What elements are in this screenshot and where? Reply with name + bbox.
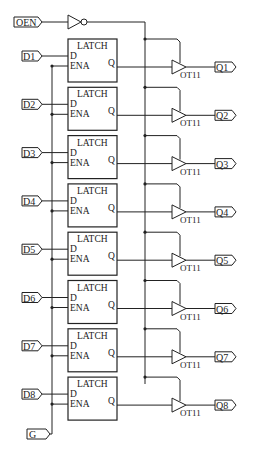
buffer-label: OT11 [180,70,201,80]
input-port-d2: D2 [22,99,42,110]
latch-pin-q: Q [108,348,115,358]
output-port-q7: Q7 [215,352,236,363]
inverter-gate [68,15,87,29]
latch-pin-d: D [70,148,77,158]
output-label: Q5 [216,255,228,266]
latch-title: LATCH [77,331,108,341]
buffer-label: OT11 [180,312,201,322]
latch-row-8: D8LATCHDENAQOT11Q8 [22,376,236,421]
latch-pin-ena: ENA [70,206,90,216]
latch-row-4: D4LATCHDENAQOT11Q4 [22,182,236,227]
latch-pin-ena: ENA [70,399,90,409]
latch-pin-q: Q [108,155,115,165]
latch-block: LATCHDENAQ [68,136,117,179]
latch-title: LATCH [77,186,108,196]
output-label: Q1 [216,62,228,73]
g-label: G [29,429,36,440]
latch-title: LATCH [77,89,108,99]
output-port-q5: Q5 [215,255,236,266]
latch-block: LATCHDENAQ [68,184,117,227]
input-port-d7: D7 [22,341,42,352]
tristate-buffer: OT11 [172,253,201,273]
latch-block: LATCHDENAQ [68,377,117,420]
input-port-d5: D5 [22,244,42,255]
latch-row-2: D2LATCHDENAQOT11Q2 [22,86,236,131]
latch-schematic: OEN G D1LATCHDENAQOT11Q1D2LATCHDENAQOT11… [0,0,253,452]
buffer-label: OT11 [180,118,201,128]
latch-pin-d: D [70,389,77,399]
latch-block: LATCHDENAQ [68,232,117,275]
latch-pin-q: Q [108,106,115,116]
oen-input-port: OEN [14,17,42,28]
input-port-d4: D4 [22,196,42,207]
input-label: D2 [23,99,35,110]
latch-title: LATCH [77,138,108,148]
latch-pin-q: Q [108,396,115,406]
latch-pin-d: D [70,196,77,206]
latch-pin-ena: ENA [70,351,90,361]
oen-label: OEN [16,17,37,28]
buffer-label: OT11 [180,215,201,225]
latch-pin-ena: ENA [70,303,90,313]
output-label: Q2 [216,110,228,121]
output-port-q4: Q4 [215,207,236,218]
g-input-port: G [27,429,50,440]
input-label: D7 [23,341,35,352]
input-port-d3: D3 [22,148,42,159]
output-label: Q4 [216,207,228,218]
latch-row-1: D1LATCHDENAQOT11Q1 [22,37,236,82]
latch-pin-d: D [70,293,77,303]
latch-row-6: D6LATCHDENAQOT11Q6 [22,279,236,324]
buffer-label: OT11 [180,360,201,370]
input-label: D5 [23,244,35,255]
latch-block: LATCHDENAQ [68,329,117,372]
latch-row-5: D5LATCHDENAQOT11Q5 [22,231,236,276]
input-label: D8 [23,389,35,400]
input-port-d8: D8 [22,389,42,400]
output-label: Q3 [216,159,228,170]
output-port-q1: Q1 [215,62,236,73]
tristate-buffer: OT11 [172,350,201,370]
input-label: D4 [23,196,35,207]
tristate-buffer: OT11 [172,302,201,322]
latch-title: LATCH [77,283,108,293]
latch-title: LATCH [77,234,108,244]
latch-pin-d: D [70,99,77,109]
buffer-label: OT11 [180,263,201,273]
latch-pin-q: Q [108,251,115,261]
output-port-q2: Q2 [215,110,236,121]
latch-block: LATCHDENAQ [68,87,117,130]
latch-pin-d: D [70,51,77,61]
latch-pin-q: Q [108,203,115,213]
latch-title: LATCH [77,41,108,51]
latch-pin-d: D [70,341,77,351]
input-port-d6: D6 [22,293,42,304]
latch-row-3: D3LATCHDENAQOT11Q3 [22,134,236,179]
input-label: D6 [23,293,35,304]
latch-title: LATCH [77,379,108,389]
output-label: Q6 [216,304,228,315]
input-label: D3 [23,148,35,159]
latch-pin-ena: ENA [70,254,90,264]
latch-pin-ena: ENA [70,61,90,71]
latch-block: LATCHDENAQ [68,39,117,82]
output-port-q6: Q6 [215,304,236,315]
tristate-buffer: OT11 [172,398,201,418]
buffer-label: OT11 [180,408,201,418]
latch-pin-q: Q [108,300,115,310]
buffer-label: OT11 [180,167,201,177]
output-label: Q8 [216,400,228,411]
tristate-buffer: OT11 [172,108,201,128]
latch-pin-ena: ENA [70,158,90,168]
latch-pin-d: D [70,244,77,254]
tristate-buffer: OT11 [172,157,201,177]
tristate-buffer: OT11 [172,60,201,80]
tristate-buffer: OT11 [172,205,201,225]
input-label: D1 [23,51,35,62]
input-port-d1: D1 [22,51,42,62]
latch-block: LATCHDENAQ [68,281,117,324]
latch-row-7: D7LATCHDENAQOT11Q7 [22,327,236,372]
latch-pin-ena: ENA [70,109,90,119]
output-port-q8: Q8 [215,400,236,411]
latch-pin-q: Q [108,58,115,68]
